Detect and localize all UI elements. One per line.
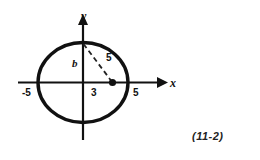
figure-caption: (11-2)	[192, 131, 224, 142]
y-axis-label: y	[81, 10, 86, 22]
point-marker-dot	[109, 79, 116, 86]
figure-canvas: y x -5 5 3 b 5 (11-2)	[0, 0, 260, 160]
x-point-label-three: 3	[91, 88, 97, 98]
x-axis-label: x	[170, 77, 176, 89]
x-tick-label-negative-five: -5	[22, 88, 31, 98]
x-axis-arrowhead	[157, 77, 168, 88]
semi-minor-label-b: b	[72, 58, 78, 69]
x-tick-label-positive-five: 5	[133, 88, 139, 98]
radius-length-label: 5	[106, 53, 112, 63]
